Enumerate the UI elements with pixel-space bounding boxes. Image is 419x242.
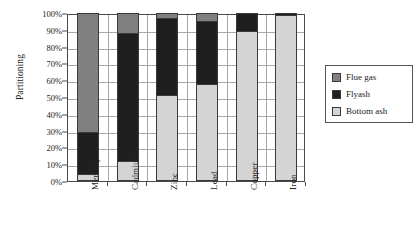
x-tick-label-iron: Iron: [289, 174, 298, 190]
gridline-vertical: [147, 15, 148, 181]
legend-item[interactable]: Bottom ash: [332, 106, 407, 116]
y-tick-label: 60%: [28, 77, 62, 86]
x-tick-label-copper: Copper: [250, 162, 259, 190]
gridline-vertical: [266, 15, 267, 181]
legend-swatch-icon: [332, 107, 341, 116]
y-tick-label: 0%: [28, 178, 62, 187]
y-tick-label: 10%: [28, 161, 62, 170]
bar-mercury[interactable]: [77, 15, 99, 181]
gridline-vertical: [108, 15, 109, 181]
bar-segment-flyash[interactable]: [196, 21, 218, 83]
legend-label: Bottom ash: [346, 107, 387, 116]
x-tick-label-cadmium: Cadmium: [131, 153, 140, 190]
y-tick-label: 40%: [28, 111, 62, 120]
gridline-horizontal: [68, 149, 304, 150]
bar-segment-bottom-ash[interactable]: [196, 84, 218, 181]
y-tick-mark: [62, 131, 67, 132]
bar-zinc[interactable]: [156, 15, 178, 181]
gridline-horizontal: [68, 49, 304, 50]
bar-iron[interactable]: [275, 15, 297, 181]
x-tick-mark: [305, 182, 306, 186]
bar-segment-flyash[interactable]: [117, 33, 139, 161]
chart-legend: Flue gasFlyashBottom ash: [325, 65, 413, 123]
bar-copper[interactable]: [236, 15, 258, 181]
bar-segment-flyash[interactable]: [156, 18, 178, 95]
y-tick-label: 50%: [28, 94, 62, 103]
x-tick-label-zinc: Zinc: [170, 173, 179, 190]
y-tick-label: 90%: [28, 27, 62, 36]
bar-segment-flue-gas[interactable]: [196, 13, 218, 21]
plot-area: [67, 14, 305, 182]
y-axis-tick-labels: 0%10%20%30%40%50%60%70%80%90%100%: [28, 14, 62, 182]
y-tick-mark: [62, 81, 67, 82]
legend-label: Flyash: [346, 90, 370, 99]
y-tick-mark: [62, 47, 67, 48]
y-tick-label: 30%: [28, 127, 62, 136]
gridline-horizontal: [68, 166, 304, 167]
gridline-horizontal: [68, 82, 304, 83]
legend-item[interactable]: Flyash: [332, 89, 407, 99]
bar-segment-flyash[interactable]: [275, 13, 297, 15]
y-tick-label: 80%: [28, 43, 62, 52]
y-tick-mark: [62, 98, 67, 99]
gridline-horizontal: [68, 65, 304, 66]
y-tick-label: 20%: [28, 144, 62, 153]
y-tick-mark: [62, 14, 67, 15]
y-tick-mark: [62, 114, 67, 115]
y-tick-mark: [62, 148, 67, 149]
gridline-horizontal: [68, 116, 304, 117]
y-tick-mark: [62, 30, 67, 31]
legend-swatch-icon: [332, 90, 341, 99]
gridline-vertical: [187, 15, 188, 181]
y-tick-mark: [62, 182, 67, 183]
bar-segment-flue-gas[interactable]: [77, 13, 99, 132]
y-tick-mark: [62, 64, 67, 65]
legend-swatch-icon: [332, 73, 341, 82]
y-tick-mark: [62, 165, 67, 166]
gridline-horizontal: [68, 99, 304, 100]
bar-segment-flue-gas[interactable]: [117, 13, 139, 33]
x-tick-label-lead: Lead: [210, 171, 219, 190]
gridline-horizontal: [68, 133, 304, 134]
legend-label: Flue gas: [346, 73, 376, 82]
x-tick-mark: [186, 182, 187, 186]
gridline-vertical: [227, 15, 228, 181]
bar-segment-flue-gas[interactable]: [156, 13, 178, 18]
bar-segment-bottom-ash[interactable]: [275, 15, 297, 181]
bar-segment-bottom-ash[interactable]: [236, 31, 258, 181]
bar-segment-flyash[interactable]: [236, 13, 258, 31]
chart-figure: Partitioning 0%10%20%30%40%50%60%70%80%9…: [0, 0, 419, 242]
x-tick-label-mercury: Mercury: [91, 158, 100, 190]
y-tick-label: 70%: [28, 60, 62, 69]
legend-item[interactable]: Flue gas: [332, 72, 407, 82]
x-tick-mark: [226, 182, 227, 186]
gridline-horizontal: [68, 32, 304, 33]
y-axis-title: Partitioning: [15, 27, 25, 127]
y-tick-label: 100%: [28, 10, 62, 19]
bar-lead[interactable]: [196, 15, 218, 181]
x-tick-mark: [265, 182, 266, 186]
bar-segment-bottom-ash[interactable]: [156, 95, 178, 181]
x-tick-mark: [107, 182, 108, 186]
x-tick-mark: [146, 182, 147, 186]
